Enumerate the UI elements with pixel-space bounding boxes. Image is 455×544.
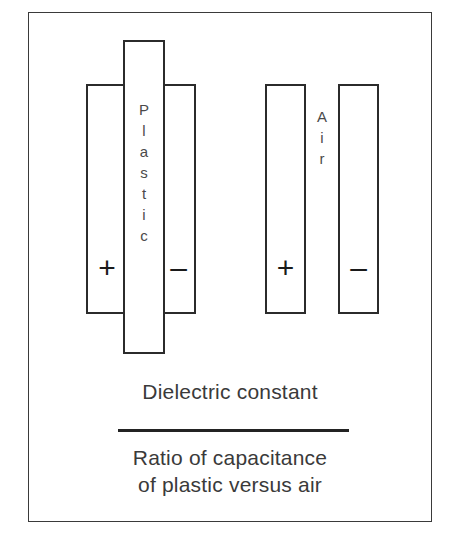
- plastic-negative-plate: –: [161, 84, 196, 314]
- formula-denominator-line-2: of plastic versus air: [28, 471, 432, 498]
- air-negative-plate: –: [338, 84, 379, 314]
- plastic-letter: c: [140, 225, 148, 246]
- plastic-negative-sign: –: [163, 253, 194, 283]
- fraction-bar: [118, 429, 349, 432]
- air-letter: i: [320, 127, 323, 148]
- air-letter: r: [320, 148, 325, 169]
- plastic-letter: s: [140, 162, 148, 183]
- plastic-positive-plate: +: [86, 84, 128, 314]
- plastic-positive-sign: +: [88, 253, 126, 283]
- formula-numerator: Dielectric constant: [28, 378, 432, 405]
- plastic-letter: a: [140, 141, 148, 162]
- plastic-letter: P: [139, 99, 149, 120]
- plastic-letter: l: [142, 120, 145, 141]
- plastic-dielectric-slab: P l a s t i c: [123, 40, 165, 354]
- plastic-letter: i: [142, 204, 145, 225]
- formula-denominator-line-1: Ratio of capacitance: [28, 444, 432, 471]
- air-negative-sign: –: [340, 253, 377, 283]
- diagram-canvas: + – P l a s t i c: [0, 0, 455, 544]
- air-positive-plate: +: [265, 84, 306, 314]
- formula-denominator: Ratio of capacitance of plastic versus a…: [28, 444, 432, 498]
- formula-block: Dielectric constant: [28, 378, 432, 415]
- air-label: A i r: [306, 106, 338, 169]
- air-positive-sign: +: [267, 253, 304, 283]
- plastic-label: P l a s t i c: [125, 99, 163, 246]
- plastic-letter: t: [142, 183, 146, 204]
- air-letter: A: [317, 106, 327, 127]
